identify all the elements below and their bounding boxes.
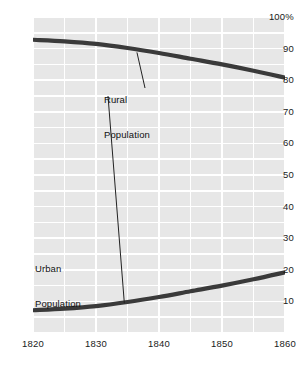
figure-caption [0, 356, 299, 367]
annotation-urban-population: Urban Population [35, 240, 81, 332]
x-axis-tick-1820: 1820 [11, 338, 55, 349]
chart-root: 102030405060708090100% 18201830184018501… [0, 0, 299, 367]
x-axis-tick-1840: 1840 [137, 338, 181, 349]
y-axis-tick-80: 80 [266, 75, 299, 85]
y-axis-tick-30: 30 [266, 233, 299, 243]
y-axis-tick-50: 50 [266, 170, 299, 180]
y-axis-tick-20: 20 [266, 265, 299, 275]
annotation-rural-line2: Population [104, 129, 150, 141]
x-axis-tick-1850: 1850 [200, 338, 244, 349]
y-axis-tick-70: 70 [266, 107, 299, 117]
y-axis-tick-40: 40 [266, 202, 299, 212]
annotation-urban-line2: Population [35, 298, 81, 310]
x-axis-tick-1830: 1830 [74, 338, 118, 349]
x-axis-tick-1860: 1860 [263, 338, 299, 349]
y-axis-tick-10: 10 [266, 296, 299, 306]
annotation-rural-line1: Rural [104, 94, 150, 106]
annotation-urban-line1: Urban [35, 263, 81, 275]
annotation-rural-population: Rural Population [104, 71, 150, 163]
y-axis-tick-90: 90 [266, 44, 299, 54]
y-axis-tick-100: 100% [266, 12, 299, 22]
y-axis-tick-60: 60 [266, 138, 299, 148]
